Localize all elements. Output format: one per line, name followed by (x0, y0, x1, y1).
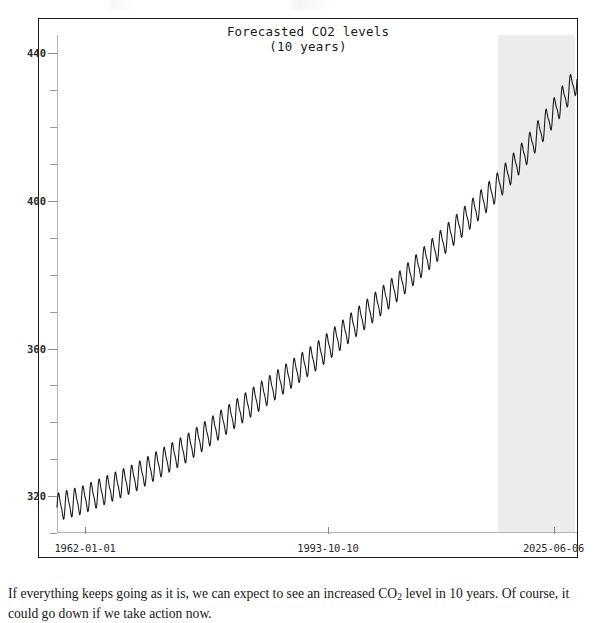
y-axis-tick-minor (50, 164, 57, 165)
x-axis-tick-label: 1993-10-10 (297, 542, 358, 554)
figure-caption: If everything keeps going as it is, we c… (8, 584, 588, 623)
y-axis-tick-minor (50, 275, 57, 276)
y-axis-tick-major (48, 53, 57, 54)
plot-area: 320360400440 1962-01-011993-10-102025-06… (57, 35, 577, 533)
y-axis-tick-label: 360 (27, 343, 46, 355)
y-axis-tick-major (48, 349, 57, 350)
y-axis-tick-minor (50, 90, 57, 91)
y-axis-tick-label: 400 (27, 195, 46, 207)
scan-artifact (0, 0, 596, 10)
x-axis-tick-label: 2025-06-06 (523, 542, 584, 554)
caption-subscript: 2 (397, 591, 402, 602)
y-axis-tick-label: 320 (27, 490, 46, 502)
y-axis-tick-major (48, 496, 57, 497)
y-axis-tick-minor (50, 385, 57, 386)
chart-figure-frame: Forecasted CO2 levels (10 years) 3203604… (38, 18, 578, 558)
caption-part-1: If everything keeps going as it is, we c… (8, 586, 397, 601)
y-axis-tick-label: 440 (27, 47, 46, 59)
y-axis-tick-major (48, 201, 57, 202)
co2-series-line (57, 35, 577, 533)
y-axis-tick-minor (50, 238, 57, 239)
x-axis-tick-label: 1962-01-01 (54, 542, 115, 554)
y-axis-tick-minor (50, 312, 57, 313)
y-axis-tick-minor (50, 127, 57, 128)
y-axis-tick-minor (50, 422, 57, 423)
y-axis-tick-minor (50, 459, 57, 460)
y-axis-tick-minor (50, 533, 57, 534)
